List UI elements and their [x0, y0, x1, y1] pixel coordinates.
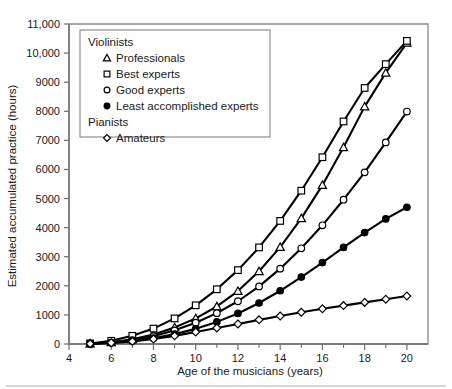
- data-marker-circle-filled: [277, 287, 284, 294]
- data-marker-square: [171, 315, 178, 322]
- data-marker-square: [340, 118, 347, 125]
- data-marker-circle-open: [256, 283, 263, 290]
- data-marker-circle-open: [382, 139, 389, 146]
- data-marker-circle-open: [104, 87, 110, 93]
- y-tick-label: 5000: [36, 193, 60, 205]
- y-tick-label: 8000: [36, 105, 60, 117]
- data-marker-square: [361, 85, 368, 92]
- data-marker-circle-filled: [104, 103, 110, 109]
- y-tick-label: 0: [54, 338, 60, 350]
- data-marker-circle-open: [361, 169, 368, 176]
- data-marker-square: [214, 286, 221, 293]
- data-marker-square: [298, 187, 305, 194]
- data-marker-circle-open: [277, 265, 284, 272]
- legend-group-heading: Violinists: [88, 36, 133, 48]
- data-marker-square: [192, 302, 199, 309]
- y-tick-label: 6000: [36, 163, 60, 175]
- y-axis-label: Estimated accumulated practice (hours): [6, 85, 18, 288]
- data-marker-square: [150, 325, 157, 332]
- x-tick-label: 14: [274, 352, 286, 364]
- x-tick-label: 20: [401, 352, 413, 364]
- data-marker-square: [104, 71, 110, 77]
- data-marker-square: [382, 61, 389, 68]
- legend-entry-least-accomplished-experts[interactable]: Least accomplished experts: [104, 100, 259, 112]
- x-tick-label: 6: [108, 352, 114, 364]
- data-marker-circle-open: [298, 245, 305, 252]
- x-tick-label: 4: [66, 352, 72, 364]
- legend-entry-good-experts[interactable]: Good experts: [104, 84, 185, 96]
- data-marker-circle-filled: [340, 244, 347, 251]
- y-tick-label: 3000: [36, 251, 60, 263]
- legend-entry-professionals[interactable]: Professionals: [103, 52, 185, 64]
- y-tick-label: 10,000: [26, 47, 60, 59]
- y-tick-label: 7000: [36, 134, 60, 146]
- x-tick-label: 10: [190, 352, 202, 364]
- chart-legend: ViolinistsProfessionalsBest expertsGood …: [80, 30, 270, 144]
- data-marker-square: [256, 244, 263, 251]
- legend-entry-best-experts[interactable]: Best experts: [104, 68, 180, 80]
- data-marker-circle-filled: [298, 274, 305, 281]
- data-marker-circle-filled: [256, 300, 263, 307]
- y-tick-label: 9000: [36, 76, 60, 88]
- data-marker-circle-open: [214, 310, 221, 317]
- data-marker-square: [404, 38, 411, 45]
- data-marker-circle-filled: [404, 204, 411, 211]
- y-tick-label: 11,000: [27, 18, 60, 30]
- x-tick-label: 8: [150, 352, 156, 364]
- figure-container: 010002000300040005000600070008000900010,…: [0, 0, 452, 389]
- practice-hours-line-chart: 010002000300040005000600070008000900010,…: [0, 0, 452, 389]
- data-marker-circle-filled: [361, 229, 368, 236]
- data-marker-circle-filled: [382, 216, 389, 223]
- x-tick-label: 16: [316, 352, 328, 364]
- data-marker-circle-open: [235, 298, 242, 305]
- y-tick-label: 2000: [36, 280, 60, 292]
- legend-entry-label: Least accomplished experts: [116, 100, 259, 112]
- legend-entry-label: Amateurs: [116, 132, 165, 144]
- data-marker-circle-open: [340, 196, 347, 203]
- data-marker-circle-filled: [235, 310, 242, 317]
- data-marker-square: [319, 154, 326, 161]
- data-marker-square: [235, 267, 242, 274]
- y-tick-label: 4000: [36, 222, 60, 234]
- y-tick-label: 1000: [36, 309, 60, 321]
- data-marker-square: [277, 218, 284, 225]
- legend-entry-label: Good experts: [116, 84, 185, 96]
- x-tick-label: 12: [232, 352, 244, 364]
- data-marker-circle-filled: [319, 259, 326, 266]
- data-marker-circle-open: [404, 108, 411, 115]
- legend-entry-label: Professionals: [116, 52, 185, 64]
- x-tick-label: 18: [359, 352, 371, 364]
- data-marker-circle-open: [319, 222, 326, 229]
- legend-entry-label: Best experts: [116, 68, 180, 80]
- legend-group-heading: Pianists: [88, 116, 129, 128]
- x-axis-label: Age of the musicians (years): [177, 365, 323, 377]
